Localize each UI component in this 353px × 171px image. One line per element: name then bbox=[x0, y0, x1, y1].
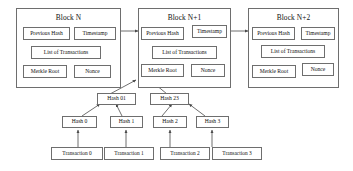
block-n[interactable]: Block N Previous Hash Timestamp List of … bbox=[16, 8, 121, 88]
transaction-3-label: Transaction 3 bbox=[222, 151, 251, 156]
block-n-plus-2[interactable]: Block N+2 Previous Hash Timestamp List o… bbox=[248, 8, 339, 88]
block-n-plus-1-previous-hash[interactable]: Previous Hash bbox=[141, 27, 184, 40]
block-n-plus-2-list-of-transactions[interactable]: List of Transactions bbox=[261, 45, 325, 58]
arrow-hash1-to-hash01 bbox=[116, 104, 122, 116]
transaction-1-label: Transaction 1 bbox=[114, 151, 143, 156]
transaction-0-label: Transaction 0 bbox=[62, 151, 91, 156]
block-n-plus-1-merkle-root[interactable]: Merkle Root bbox=[141, 64, 184, 77]
block-n-plus-1-timestamp[interactable]: Timestamp bbox=[192, 25, 227, 38]
block-n-plus-1-list-of-transactions[interactable]: List of Transactions bbox=[152, 46, 217, 59]
block-n-plus-1-nonce[interactable]: Nonce bbox=[191, 64, 225, 77]
transaction-2[interactable]: Transaction 2 bbox=[160, 147, 210, 160]
transaction-2-label: Transaction 2 bbox=[170, 151, 199, 156]
block-n-previous-hash[interactable]: Previous Hash bbox=[23, 27, 70, 40]
block-n-plus-2-nonce[interactable]: Nonce bbox=[302, 63, 334, 76]
transaction-1[interactable]: Transaction 1 bbox=[104, 147, 154, 160]
block-n-plus-2-title: Block N+2 bbox=[249, 13, 338, 22]
block-n-plus-2-timestamp[interactable]: Timestamp bbox=[301, 27, 335, 40]
merkle-leaf-hash-1[interactable]: Hash 1 bbox=[110, 116, 143, 128]
merkle-leaf-hash-2[interactable]: Hash 2 bbox=[153, 116, 187, 128]
merkle-node-hash-01-label: Hash 01 bbox=[107, 96, 126, 102]
block-n-plus-1-title: Block N+1 bbox=[139, 13, 230, 22]
arrow-hash3-to-hash23 bbox=[189, 104, 205, 116]
merkle-leaf-hash-3[interactable]: Hash 3 bbox=[196, 116, 229, 128]
block-n-nonce[interactable]: Nonce bbox=[74, 65, 111, 78]
arrow-hash2-to-hash23 bbox=[162, 104, 172, 116]
merkle-leaf-hash-1-label: Hash 1 bbox=[119, 119, 135, 125]
block-n-timestamp[interactable]: Timestamp bbox=[74, 27, 116, 40]
block-n-plus-2-previous-hash[interactable]: Previous Hash bbox=[252, 27, 295, 40]
merkle-node-hash-23[interactable]: Hash 23 bbox=[150, 93, 189, 105]
arrow-hash0-to-hash01 bbox=[82, 104, 100, 116]
merkle-leaf-hash-0-label: Hash 0 bbox=[72, 119, 88, 125]
block-n-list-of-transactions[interactable]: List of Transactions bbox=[31, 46, 101, 59]
merkle-node-hash-23-label: Hash 23 bbox=[160, 96, 179, 102]
block-n-merkle-root[interactable]: Merkle Root bbox=[23, 65, 67, 78]
blockchain-diagram: Block N Previous Hash Timestamp List of … bbox=[0, 0, 353, 171]
block-n-plus-2-merkle-root[interactable]: Merkle Root bbox=[252, 65, 296, 78]
block-n-plus-1[interactable]: Block N+1 Previous Hash Timestamp List o… bbox=[138, 8, 231, 88]
merkle-leaf-hash-3-label: Hash 3 bbox=[205, 119, 221, 125]
block-n-title: Block N bbox=[17, 13, 120, 22]
merkle-leaf-hash-2-label: Hash 2 bbox=[162, 119, 178, 125]
transaction-0[interactable]: Transaction 0 bbox=[51, 147, 103, 160]
transaction-3[interactable]: Transaction 3 bbox=[212, 147, 262, 160]
merkle-leaf-hash-0[interactable]: Hash 0 bbox=[62, 116, 97, 128]
merkle-node-hash-01[interactable]: Hash 01 bbox=[97, 93, 136, 105]
